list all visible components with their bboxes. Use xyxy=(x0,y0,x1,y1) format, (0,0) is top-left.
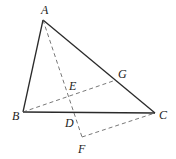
label-A: A xyxy=(40,3,49,17)
segment-AC xyxy=(43,20,155,113)
label-F: F xyxy=(77,142,86,156)
segment-BC xyxy=(23,112,155,113)
label-B: B xyxy=(12,109,20,123)
label-C: C xyxy=(159,108,168,122)
segment-AB xyxy=(23,20,43,112)
segment-FC xyxy=(82,113,155,137)
label-E: E xyxy=(68,79,77,93)
label-D: D xyxy=(64,116,74,130)
label-G: G xyxy=(118,67,127,81)
geometry-diagram: A B C D E F G xyxy=(0,0,176,159)
